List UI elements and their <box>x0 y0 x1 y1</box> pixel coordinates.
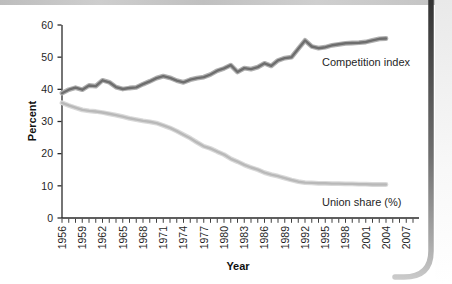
page-edge-line <box>395 0 431 277</box>
page-edge-curl <box>0 0 452 284</box>
scanned-page: 0102030405060195619591962196519681971197… <box>0 0 452 284</box>
